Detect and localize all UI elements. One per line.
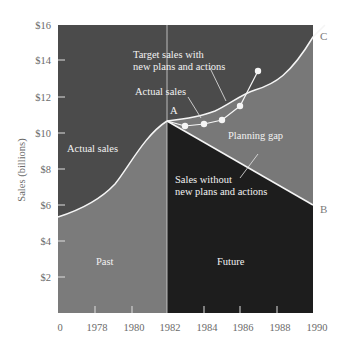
y-tick-2: $2 [41,272,52,283]
y-tick-labels: $16 $14 $12 $10 $8 $6 $4 $2 [35,20,52,283]
target-label-line2: new plans and actions [133,61,225,72]
actual-sales-past-label: Actual sales [67,143,118,154]
x-tick-1988: 1988 [270,322,291,333]
x-tick-1990: 1990 [307,322,328,333]
target-label-line1: Target sales with [133,49,205,60]
y-axis-title: Sales (billions) [16,138,28,202]
y-tick-14: $14 [35,55,52,66]
x-tick-0: 0 [57,322,62,333]
actual-sales-future-label: Actual sales [135,86,186,97]
y-tick-8: $8 [41,164,52,175]
sales-planning-chart: $16 $14 $12 $10 $8 $6 $4 $2 Sales (billi… [0,0,345,348]
y-tick-4: $4 [41,236,52,247]
y-tick-16: $16 [35,20,51,31]
x-tick-1982: 1982 [160,322,181,333]
without-plans-label-line2: new plans and actions [175,186,267,197]
y-tick-10: $10 [35,128,51,139]
x-tick-labels: 0 1978 1980 1982 1984 1986 1988 1990 [57,322,327,333]
y-tick-6: $6 [41,200,52,211]
x-tick-1984: 1984 [197,322,219,333]
point-a-label: A [170,105,178,116]
past-label: Past [96,256,114,267]
future-label: Future [217,256,245,267]
point-c-label: C [320,30,327,42]
x-tick-1978: 1978 [87,322,108,333]
x-tick-1986: 1986 [233,322,254,333]
without-plans-label-line1: Sales without [175,174,232,185]
point-b-label: B [320,203,327,215]
y-tick-12: $12 [35,92,51,103]
planning-gap-label: Planning gap [228,130,283,141]
x-tick-1980: 1980 [124,322,145,333]
